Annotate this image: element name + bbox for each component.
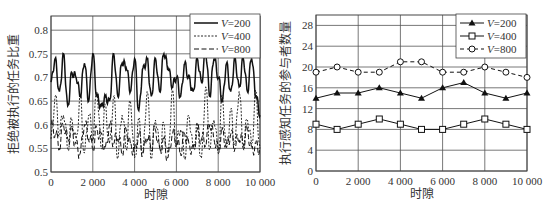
y-tick-label: 0.5 xyxy=(34,166,48,178)
circle-marker xyxy=(313,69,319,75)
y-tick-label: 0.65 xyxy=(29,95,49,107)
legend: V=200V=400V=800 xyxy=(190,14,260,58)
x-tick-label: 0 xyxy=(313,175,319,187)
x-axis-label: 时隙 xyxy=(144,188,168,202)
x-tick-label: 4 000 xyxy=(388,175,413,187)
square-marker xyxy=(397,121,403,127)
x-axis-label: 时隙 xyxy=(410,187,434,201)
square-marker xyxy=(376,116,382,122)
circle-marker xyxy=(440,69,446,75)
y-tick-label: 0.55 xyxy=(29,142,49,154)
square-marker xyxy=(313,121,319,127)
x-tick-label: 8 000 xyxy=(472,175,497,187)
square-marker xyxy=(334,126,340,132)
y-axis-label: 执行感知任务的参与者数量 xyxy=(278,21,293,165)
y-tick-label: 0.6 xyxy=(34,119,48,131)
circle-marker xyxy=(419,59,425,65)
x-tick-label: 2 000 xyxy=(346,175,371,187)
x-tick-label: 0 xyxy=(48,176,54,188)
square-marker xyxy=(503,121,509,127)
right-chart-participant-count: 048121620242802 0004 0006 0008 00010 000… xyxy=(276,0,552,214)
triangle-marker xyxy=(481,90,488,96)
y-axis-label: 拒绝被执行的任务比重 xyxy=(6,34,21,154)
x-tick-label: 8 000 xyxy=(206,176,231,188)
y-tick-label: 16 xyxy=(302,82,314,94)
circle-marker xyxy=(524,74,530,80)
x-tick-label: 10 000 xyxy=(512,175,543,187)
circle-marker xyxy=(376,69,382,75)
y-tick-label: 0.7 xyxy=(34,71,48,83)
x-tick-label: 10 000 xyxy=(245,176,276,188)
circle-marker xyxy=(355,69,361,75)
circle-marker xyxy=(469,46,475,52)
square-marker xyxy=(440,126,446,132)
circle-marker xyxy=(482,64,488,70)
triangle-marker xyxy=(376,84,383,90)
y-tick-label: 12 xyxy=(302,103,313,115)
square-marker xyxy=(524,126,530,132)
y-tick-label: 0.8 xyxy=(34,24,48,36)
left-chart-rejected-task-ratio: 0.50.550.60.650.70.750.802 0004 0006 000… xyxy=(0,0,276,214)
series-line-v-400 xyxy=(51,87,260,160)
y-tick-label: 24 xyxy=(302,40,314,52)
series-line-v-200 xyxy=(51,54,260,117)
triangle-marker xyxy=(524,90,531,96)
triangle-marker xyxy=(460,79,467,85)
legend-label: V=800 xyxy=(221,43,251,55)
legend: V=200V=400V=800 xyxy=(456,14,526,58)
legend-label: V=200 xyxy=(487,17,517,29)
y-tick-label: 28 xyxy=(302,19,314,31)
x-tick-label: 6 000 xyxy=(430,175,455,187)
legend-label: V=200 xyxy=(221,17,251,29)
y-tick-label: 0.75 xyxy=(29,48,49,60)
y-tick-label: 4 xyxy=(308,144,314,156)
square-marker xyxy=(482,116,488,122)
square-marker xyxy=(355,121,361,127)
square-marker xyxy=(461,121,467,127)
square-marker xyxy=(419,126,425,132)
circle-marker xyxy=(461,69,467,75)
square-marker xyxy=(469,33,475,39)
legend-label: V=400 xyxy=(487,30,517,42)
legend-label: V=800 xyxy=(487,43,517,55)
legend-label: V=400 xyxy=(221,30,251,42)
circle-marker xyxy=(503,69,509,75)
x-tick-label: 6 000 xyxy=(164,176,189,188)
circle-marker xyxy=(397,59,403,65)
y-tick-label: 20 xyxy=(302,61,314,73)
circle-marker xyxy=(334,64,340,70)
x-tick-label: 4 000 xyxy=(122,176,147,188)
x-tick-label: 2 000 xyxy=(80,176,105,188)
